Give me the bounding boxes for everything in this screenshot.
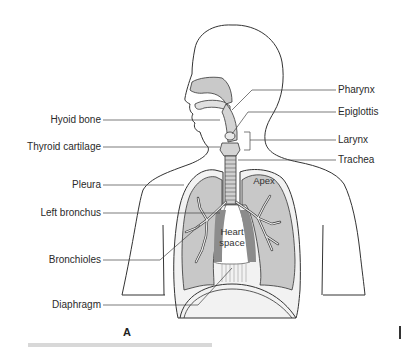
label-diaphragm: Diaphragm xyxy=(52,299,101,311)
panel-letter: A xyxy=(123,326,131,338)
pharynx-tube xyxy=(220,104,240,156)
edge-mark xyxy=(399,326,401,339)
trachea xyxy=(225,156,236,204)
label-pharynx: Pharynx xyxy=(338,84,375,96)
label-apex: Apex xyxy=(249,175,279,186)
label-bronchioles: Bronchioles xyxy=(49,254,101,266)
leader-lines-right xyxy=(232,90,336,160)
label-larynx: Larynx xyxy=(338,134,368,146)
label-epiglottis: Epiglottis xyxy=(338,106,379,118)
label-thyroid-cartilage: Thyroid cartilage xyxy=(27,141,101,153)
label-left-bronchus: Left bronchus xyxy=(40,207,101,219)
label-hyoid-bone: Hyoid bone xyxy=(50,114,101,126)
heart-space-line2: space xyxy=(215,237,249,248)
label-heart-space: Heart space xyxy=(215,226,249,248)
label-pleura: Pleura xyxy=(72,179,101,191)
label-trachea: Trachea xyxy=(338,154,374,166)
heart-space-line1: Heart xyxy=(215,226,249,237)
bottom-bleed-bar xyxy=(28,343,212,347)
